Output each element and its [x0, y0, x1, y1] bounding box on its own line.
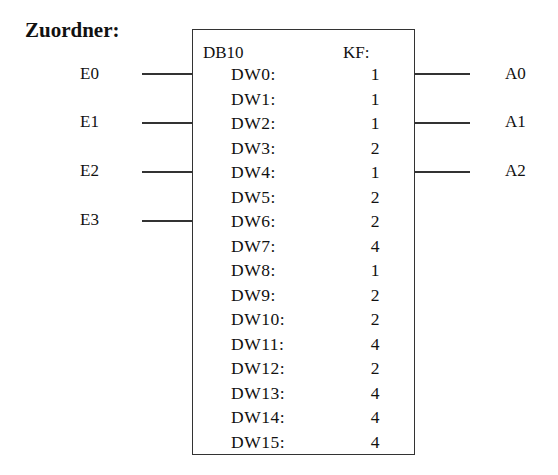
data-word-row: DW9:2: [193, 285, 414, 306]
word-value: 2: [368, 211, 380, 232]
data-word-row: DW0:1: [193, 64, 414, 85]
output-label-a0: A0: [505, 64, 526, 84]
data-word-row: DW15:4: [193, 432, 414, 453]
input-label-e3: E3: [80, 210, 99, 230]
word-value: 4: [368, 383, 380, 404]
data-word-row: DW13:4: [193, 383, 414, 404]
input-wire-e0: [142, 73, 192, 75]
word-value: 1: [368, 64, 380, 85]
word-label: DW5:: [231, 187, 276, 208]
word-label: DW15:: [231, 432, 285, 453]
diagram-title: Zuordner:: [25, 18, 120, 43]
data-word-row: DW5:2: [193, 187, 414, 208]
word-value: 4: [368, 236, 380, 257]
output-label-a2: A2: [505, 161, 526, 181]
input-wire-e3: [142, 220, 192, 222]
word-label: DW10:: [231, 309, 285, 330]
word-value: 2: [368, 309, 380, 330]
word-value: 2: [368, 138, 380, 159]
output-wire-a1: [415, 122, 470, 124]
data-word-row: DW14:4: [193, 407, 414, 428]
word-label: DW13:: [231, 383, 285, 404]
data-word-row: DW11:4: [193, 334, 414, 355]
data-word-row: DW8:1: [193, 260, 414, 281]
output-wire-a2: [415, 171, 470, 173]
word-label: DW1:: [231, 89, 276, 110]
word-value: 2: [368, 187, 380, 208]
word-label: DW3:: [231, 138, 276, 159]
input-label-e1: E1: [80, 112, 99, 132]
word-label: DW12:: [231, 358, 285, 379]
word-label: DW4:: [231, 162, 276, 183]
word-value: 2: [368, 358, 380, 379]
word-value: 1: [368, 162, 380, 183]
format-label: KF:: [343, 43, 369, 63]
data-word-row: DW2:1: [193, 113, 414, 134]
word-value: 4: [368, 432, 380, 453]
input-wire-e2: [142, 171, 192, 173]
data-word-row: DW7:4: [193, 236, 414, 257]
word-value: 1: [368, 113, 380, 134]
word-label: DW7:: [231, 236, 276, 257]
input-label-e0: E0: [80, 64, 99, 84]
word-value: 1: [368, 260, 380, 281]
word-label: DW11:: [231, 334, 284, 355]
word-label: DW2:: [231, 113, 276, 134]
word-label: DW6:: [231, 211, 276, 232]
data-word-row: DW10:2: [193, 309, 414, 330]
data-word-row: DW3:2: [193, 138, 414, 159]
data-word-row: DW12:2: [193, 358, 414, 379]
word-value: 4: [368, 407, 380, 428]
data-word-row: DW1:1: [193, 89, 414, 110]
data-word-row: DW6:2: [193, 211, 414, 232]
input-wire-e1: [142, 122, 192, 124]
word-value: 1: [368, 89, 380, 110]
word-label: DW14:: [231, 407, 285, 428]
block-name: DB10: [203, 43, 244, 63]
output-wire-a0: [415, 73, 470, 75]
word-label: DW0:: [231, 64, 276, 85]
data-block-box: DB10 KF: DW0:1 DW1:1 DW2:1 DW3:2 DW4:1 D…: [192, 29, 415, 455]
data-word-row: DW4:1: [193, 162, 414, 183]
word-value: 2: [368, 285, 380, 306]
word-label: DW8:: [231, 260, 276, 281]
word-value: 4: [368, 334, 380, 355]
input-label-e2: E2: [80, 161, 99, 181]
word-label: DW9:: [231, 285, 276, 306]
output-label-a1: A1: [505, 112, 526, 132]
